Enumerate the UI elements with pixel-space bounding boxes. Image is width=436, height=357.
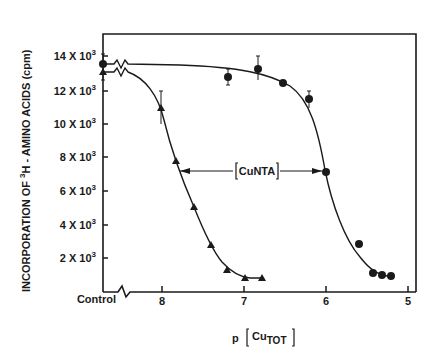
y-tick-label-10: 10 X 103: [54, 116, 97, 130]
y-tick-label-8: 8 X 103: [60, 149, 97, 163]
x-tick-label-8: 8: [159, 295, 165, 307]
svg-text:CuTOT: CuTOT: [252, 330, 287, 346]
y-axis-title: INCORPORATION OF 3H - AMINO ACIDS (cpm): [18, 49, 32, 292]
y-tick-label-6: 6 X 103: [60, 183, 97, 197]
x-axis-title: p CuTOT: [232, 329, 294, 346]
control-label: Control: [77, 293, 116, 305]
y-tick-label-12: 12 X 103: [54, 83, 97, 97]
cunta-annotation: CuNTA: [180, 163, 322, 179]
cunta-label: CuNTA: [239, 165, 276, 177]
x-tick-label-6: 6: [323, 295, 329, 307]
x-tick-label-7: 7: [241, 295, 247, 307]
y-tick-label-2: 2 X 103: [60, 250, 97, 264]
y-tick-label-14: 14 X 103: [54, 48, 97, 62]
y-axis-tick-labels: 14 X 103 12 X 103 10 X 103 8 X 103 6 X 1…: [54, 48, 97, 264]
y-tick-label-4: 4 X 103: [60, 217, 97, 231]
x-tick-label-5: 5: [405, 295, 411, 307]
x-axis-ticks: [162, 286, 408, 292]
svg-text:p: p: [232, 332, 239, 344]
chart: 14 X 103 12 X 103 10 X 103 8 X 103 6 X 1…: [0, 0, 436, 357]
